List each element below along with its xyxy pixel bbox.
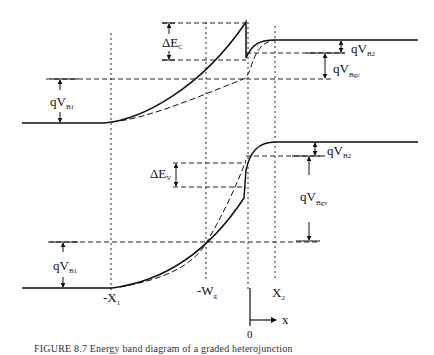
label-qvb1-bottom: qVB1 bbox=[53, 258, 78, 275]
origin-label: 0 bbox=[247, 328, 253, 340]
tick-label-x2: X2 bbox=[272, 285, 285, 302]
label-qvbgv: qVBgv bbox=[300, 189, 328, 207]
tick-label-minus-x1: -X1 bbox=[103, 290, 121, 307]
label-qvb2-top: qVB2 bbox=[351, 41, 376, 58]
figure-caption: FIGURE 8.7 Energy band diagram of a grad… bbox=[34, 343, 434, 354]
label-delta-ec: ΔEC bbox=[162, 35, 183, 51]
valence-band-abrupt-reference bbox=[120, 160, 246, 287]
bracket-ticks bbox=[50, 23, 345, 242]
valence-band bbox=[22, 142, 418, 288]
tick-label-minus-wg: -Wg bbox=[197, 283, 218, 300]
label-qvbgc: qVBgc bbox=[333, 61, 360, 79]
axis-label-x: x bbox=[282, 312, 289, 327]
label-qvb1-top: qVB1 bbox=[50, 94, 75, 111]
reference-levels bbox=[46, 23, 345, 242]
label-qvb2-bottom: qVB2 bbox=[327, 143, 352, 160]
label-delta-ev: ΔEV bbox=[150, 166, 171, 182]
energy-band-diagram: ΔEC qVB1 qVB2 qVBgc ΔEV qVB2 qVBgv qVB1 … bbox=[0, 0, 434, 355]
